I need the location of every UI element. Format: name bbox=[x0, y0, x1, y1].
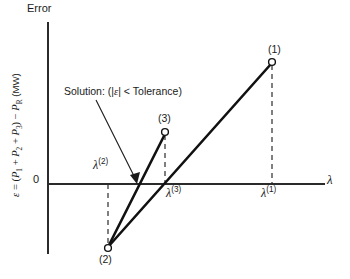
secant-line-2-to-3 bbox=[108, 134, 165, 247]
lambda3-tick-label: λ(3) bbox=[166, 186, 181, 199]
diagram-canvas bbox=[0, 0, 350, 279]
y-axis-top-caption: Error bbox=[27, 3, 51, 14]
lambda1-tick-label: λ(1) bbox=[261, 186, 276, 199]
data-point-3-marker bbox=[162, 129, 169, 136]
data-point-2-label: (2) bbox=[99, 254, 112, 265]
solution-annotation-prefix: Solution: (| bbox=[64, 85, 114, 97]
data-point-2-marker bbox=[105, 245, 112, 252]
solution-arrow-head bbox=[130, 172, 140, 184]
solution-annotation-suffix: | < Tolerance) bbox=[118, 85, 182, 97]
y-axis-label: ε = (P1 + P2 + P3) − PR (MW) bbox=[10, 30, 24, 240]
origin-zero-label: 0 bbox=[33, 174, 39, 185]
x-axis-label: λ bbox=[327, 173, 333, 186]
data-point-1-label: (1) bbox=[268, 44, 281, 55]
data-point-1-marker bbox=[269, 59, 276, 66]
lambda2-superscript: (2) bbox=[98, 157, 108, 166]
lambda2-tick-label: λ(2) bbox=[93, 158, 108, 171]
lambda1-superscript: (1) bbox=[266, 185, 276, 194]
solution-annotation: Solution: (|ε| < Tolerance) bbox=[64, 86, 182, 98]
data-point-3-label: (3) bbox=[158, 113, 171, 124]
lambda3-superscript: (3) bbox=[171, 185, 181, 194]
error-vs-lambda-diagram: Error ε = (P1 + P2 + P3) − PR (MW) 0 λ S… bbox=[0, 0, 350, 279]
